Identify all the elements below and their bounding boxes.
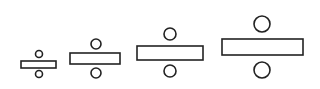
top-dot-icon xyxy=(36,51,43,58)
top-dot-icon xyxy=(164,28,176,40)
division-signs-diagram xyxy=(0,0,320,89)
division-bar xyxy=(222,39,303,55)
division-sign-small xyxy=(21,51,56,78)
bottom-dot-icon xyxy=(164,65,176,77)
division-sign-xlarge xyxy=(222,16,303,78)
bottom-dot-icon xyxy=(36,71,43,78)
division-bar xyxy=(137,46,203,60)
division-sign-large xyxy=(137,28,203,77)
bottom-dot-icon xyxy=(91,68,101,78)
division-bar xyxy=(21,61,56,68)
bottom-dot-icon xyxy=(254,62,270,78)
top-dot-icon xyxy=(91,39,101,49)
top-dot-icon xyxy=(254,16,270,32)
division-sign-medium xyxy=(70,39,120,78)
division-bar xyxy=(70,53,120,64)
